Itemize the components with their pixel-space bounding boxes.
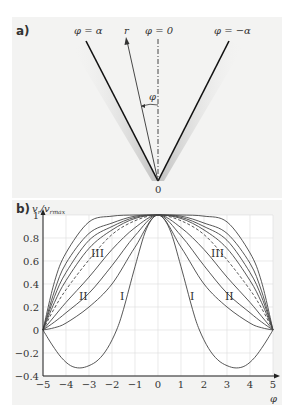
x-tick-label: 2 xyxy=(201,379,207,390)
ylabel-slash-v: /v xyxy=(40,203,50,214)
curve-label-I-right: I xyxy=(190,290,194,303)
x-axis-arrow-icon xyxy=(274,374,280,379)
velocity-profile-chart: −5−4−3−2−1012345−0.4−0.200.20.40.60.81 b… xyxy=(12,200,282,405)
curve-label-III-left: III xyxy=(91,247,104,260)
y-tick-label: 0 xyxy=(33,325,39,336)
wall-right-line xyxy=(158,41,229,181)
wedge-diagram: a) φ = α r φ = 0 φ = −α φ 0 xyxy=(12,17,282,198)
y-tick-label: 0.6 xyxy=(23,256,39,267)
wall-left-line xyxy=(86,41,158,181)
x-tick-label: 0 xyxy=(155,379,161,390)
panel-b-velocity-chart: −5−4−3−2−1012345−0.4−0.200.20.40.60.81 b… xyxy=(12,200,282,405)
curve-label-III-right: III xyxy=(211,247,224,260)
panel-b-label: b) xyxy=(16,202,30,216)
ylabel-sub-rmax: rmax xyxy=(50,208,66,215)
origin-label: 0 xyxy=(155,184,161,195)
phi-angle-label: φ xyxy=(149,91,156,102)
x-tick-label: −3 xyxy=(82,379,97,390)
y-tick-label: 0.4 xyxy=(23,279,39,290)
curve-label-II-right: II xyxy=(225,290,234,303)
x-tick-label: 4 xyxy=(247,379,253,390)
panel-a-wedge-diagram: a) φ = α r φ = 0 φ = −α φ 0 xyxy=(12,17,282,198)
phi-alpha-label: φ = α xyxy=(74,25,103,36)
y-tick-label: 0.2 xyxy=(23,302,39,313)
y-tick-label: 0.8 xyxy=(23,233,39,244)
curve-label-II-left: II xyxy=(79,290,88,303)
x-tick-label: −2 xyxy=(105,379,120,390)
arrowhead-icon xyxy=(125,37,130,45)
x-tick-label: −4 xyxy=(59,379,74,390)
phi-zero-label: φ = 0 xyxy=(145,25,174,36)
curve-label-I-left: I xyxy=(120,290,124,303)
x-tick-label: 3 xyxy=(224,379,230,390)
r-label: r xyxy=(124,25,130,36)
y-tick-label: −0.2 xyxy=(15,348,39,359)
x-axis-label: φ xyxy=(270,393,277,404)
panel-a-label: a) xyxy=(16,24,30,38)
x-tick-label: 1 xyxy=(178,379,184,390)
x-tick-label: 5 xyxy=(270,379,276,390)
wall-shading-right xyxy=(158,41,243,181)
x-tick-label: −1 xyxy=(128,379,143,390)
wall-shading-left xyxy=(72,41,158,181)
phi-neg-alpha-label: φ = −α xyxy=(214,25,251,36)
y-axis-label: vr/vrmax xyxy=(32,203,66,215)
chart-grid xyxy=(43,215,273,376)
y-tick-label: −0.4 xyxy=(15,371,39,382)
